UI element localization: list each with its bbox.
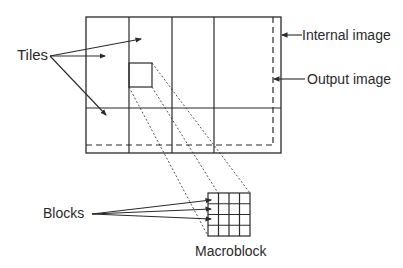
blocks-arrow-3: [92, 214, 211, 219]
projection-line: [129, 87, 208, 236]
tiles-arrow-3: [50, 56, 106, 115]
blocks-label: Blocks: [43, 206, 84, 220]
macroblock-grid: [208, 193, 250, 236]
tiles-label: Tiles: [17, 47, 48, 62]
internal-image-rect: [86, 17, 281, 153]
projection-line: [152, 87, 218, 193]
internal-image-label: Internal image: [302, 28, 391, 42]
macroblock-label: Macroblock: [195, 244, 267, 258]
projection-line: [152, 63, 250, 193]
selected-macroblock: [129, 63, 152, 87]
output-image-label: Output image: [307, 72, 391, 86]
tiles-arrow-1: [50, 39, 141, 56]
